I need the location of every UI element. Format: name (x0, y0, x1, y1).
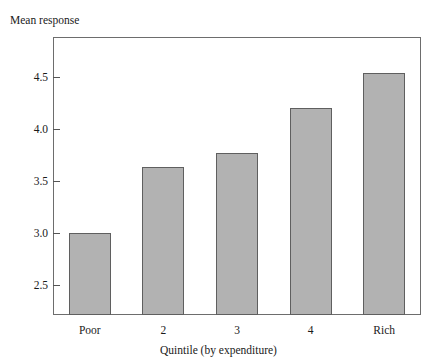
y-axis-caption: Mean response (10, 13, 79, 27)
bar (363, 73, 405, 315)
bar (290, 108, 332, 315)
y-axis-tick-label: 4.0 (14, 123, 48, 135)
chart-screenshot: Mean response 2.53.03.54.04.5 Poor234Ric… (0, 0, 437, 363)
y-axis-tick-label: 2.5 (14, 279, 48, 291)
bar (216, 153, 258, 315)
x-axis-tick-label: Poor (50, 324, 130, 337)
x-axis-title: Quintile (by expenditure) (0, 344, 437, 357)
x-axis-tick-label: 2 (123, 324, 203, 337)
y-axis-tick (53, 285, 60, 286)
y-axis-tick (53, 129, 60, 130)
y-axis-tick (53, 77, 60, 78)
y-axis-tick (53, 233, 60, 234)
bar (69, 233, 111, 315)
x-axis-tick-label: 3 (197, 324, 277, 337)
y-axis-tick-label: 3.5 (14, 175, 48, 187)
x-axis-tick-label: 4 (271, 324, 351, 337)
bar (142, 167, 184, 315)
x-axis-tick-label: Rich (344, 324, 424, 337)
y-axis-tick-label: 3.0 (14, 227, 48, 239)
y-axis-tick (53, 181, 60, 182)
clipped-top-text (8, 0, 428, 2)
plot-area (53, 37, 421, 315)
y-axis-tick-label: 4.5 (14, 71, 48, 83)
